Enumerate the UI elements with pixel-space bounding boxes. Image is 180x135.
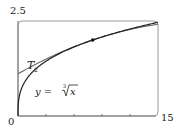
t2-label-subscript: 2 (34, 66, 38, 73)
cube-root-curve (18, 22, 158, 116)
curve-label-radicand: x (70, 86, 76, 97)
tangent-point-marker (91, 38, 95, 42)
curve-label-prefix: y = (34, 86, 52, 97)
curve-label-root-index: 3 (63, 83, 66, 89)
plot-frame (18, 21, 158, 116)
t2-label: T 2 (27, 59, 38, 73)
taylor-polynomial-chart: 2.5 0 15 T 2 y = 3 x (0, 0, 180, 135)
x-max-label: 15 (161, 112, 174, 123)
curve-label: y = 3 x (34, 83, 78, 97)
x-min-label: 0 (8, 116, 14, 127)
y-max-label: 2.5 (10, 5, 26, 16)
